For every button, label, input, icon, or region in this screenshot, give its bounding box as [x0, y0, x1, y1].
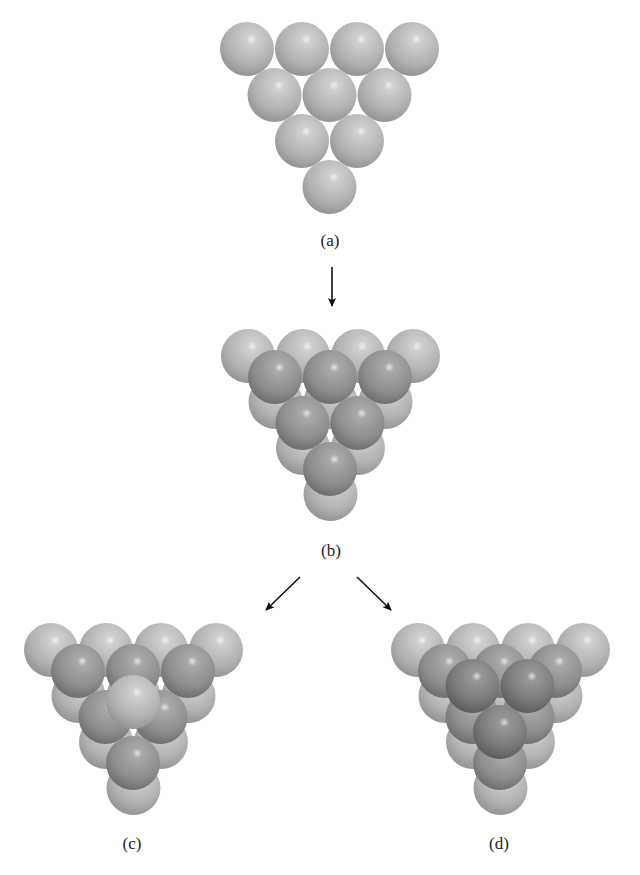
sphere	[303, 68, 357, 122]
sphere	[303, 442, 357, 496]
sphere	[330, 22, 384, 76]
sphere	[51, 644, 105, 698]
sphere-panels	[24, 22, 610, 815]
sphere	[106, 675, 160, 729]
arrow-b-to-d-icon	[357, 577, 391, 610]
panel-a	[220, 22, 439, 214]
sphere	[303, 350, 357, 404]
arrow-b-to-c-icon	[266, 577, 300, 610]
sphere	[276, 396, 330, 450]
sphere	[358, 350, 412, 404]
panel-c-layer-3	[106, 675, 160, 729]
sphere	[446, 659, 500, 713]
panel-label-c: (c)	[123, 834, 142, 854]
sphere	[473, 705, 527, 759]
panel-label-a: (a)	[321, 231, 340, 251]
sphere	[248, 350, 302, 404]
sphere	[161, 644, 215, 698]
panel-c	[24, 623, 243, 815]
sphere	[220, 22, 274, 76]
sphere	[303, 160, 357, 214]
diagram-canvas	[0, 0, 640, 875]
sphere	[331, 396, 385, 450]
panel-a-layer-1	[220, 22, 439, 214]
panel-b	[221, 329, 440, 521]
sphere	[385, 22, 439, 76]
sphere	[248, 68, 302, 122]
panel-label-d: (d)	[489, 834, 509, 854]
panel-d	[391, 623, 610, 815]
sphere	[501, 659, 555, 713]
sphere	[358, 68, 412, 122]
sphere	[330, 114, 384, 168]
sphere	[275, 114, 329, 168]
panel-label-b: (b)	[321, 541, 341, 561]
sphere	[106, 736, 160, 790]
sphere	[275, 22, 329, 76]
